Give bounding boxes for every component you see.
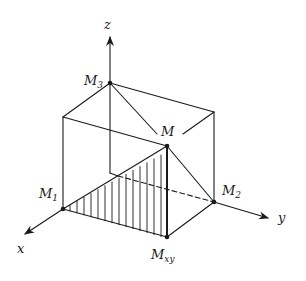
point-M1 [61, 207, 66, 212]
segment-M1-M [63, 146, 167, 209]
point-M2 [212, 200, 217, 205]
label-M3: M3 [84, 74, 103, 90]
point-M3 [108, 81, 113, 86]
point-Mxy [165, 235, 170, 240]
label-M1: M1 [39, 187, 58, 203]
segment-M-M2 [167, 146, 214, 202]
z-axis-label: z [104, 18, 111, 31]
y-axis [214, 202, 268, 218]
label-M2: M2 [222, 184, 241, 200]
x-axis [25, 209, 63, 234]
point-M [165, 144, 170, 149]
rectangular-box-diagram [0, 0, 306, 281]
label-M: M [161, 125, 174, 138]
x-axis-label: x [17, 242, 24, 255]
y-axis-label: y [278, 211, 285, 224]
label-Mxy: Mxy [151, 248, 174, 264]
box-edges [63, 83, 214, 237]
segment-M3-M [110, 83, 157, 134]
